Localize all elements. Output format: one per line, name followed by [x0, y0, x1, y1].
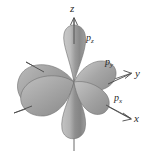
orbital-label-py: py — [105, 57, 113, 69]
orbital-label-pz-sub: z — [91, 37, 94, 45]
orbital-scene — [0, 0, 144, 151]
orbital-label-py-sub: y — [110, 61, 113, 69]
orbital-label-px-sub: x — [119, 97, 122, 105]
axis-label-x: x — [134, 113, 139, 124]
orbital-diagram-figure: z y x pz py px — [0, 0, 144, 151]
axis-label-z: z — [70, 3, 74, 14]
orbital-label-px: px — [114, 93, 122, 105]
axis-label-y: y — [135, 68, 140, 79]
orbital-label-pz: pz — [86, 33, 94, 45]
